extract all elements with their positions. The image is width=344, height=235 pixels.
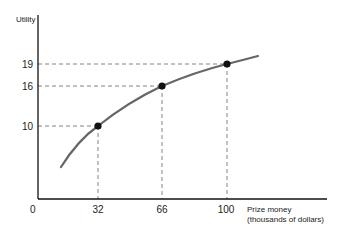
y-tick-10: 10 — [22, 121, 34, 132]
origin-label: 0 — [30, 204, 36, 215]
x-tick-66: 66 — [156, 204, 168, 215]
point-100-19 — [223, 60, 230, 67]
y-tick-16: 16 — [22, 81, 34, 92]
y-axis-label: Utility — [16, 15, 36, 24]
x-axis-label: Prize money — [247, 205, 291, 214]
data-points — [94, 60, 230, 129]
y-tick-19: 19 — [22, 59, 34, 70]
x-tick-32: 32 — [92, 204, 104, 215]
x-axis-sublabel: (thousands of dollars) — [247, 215, 324, 224]
x-tick-100: 100 — [218, 204, 235, 215]
guide-lines — [38, 64, 227, 199]
point-32-10 — [94, 122, 101, 129]
point-66-16 — [158, 82, 165, 89]
utility-chart: Utility 10 16 19 0 32 66 100 Prize money… — [0, 0, 344, 235]
utility-curve — [61, 56, 258, 167]
